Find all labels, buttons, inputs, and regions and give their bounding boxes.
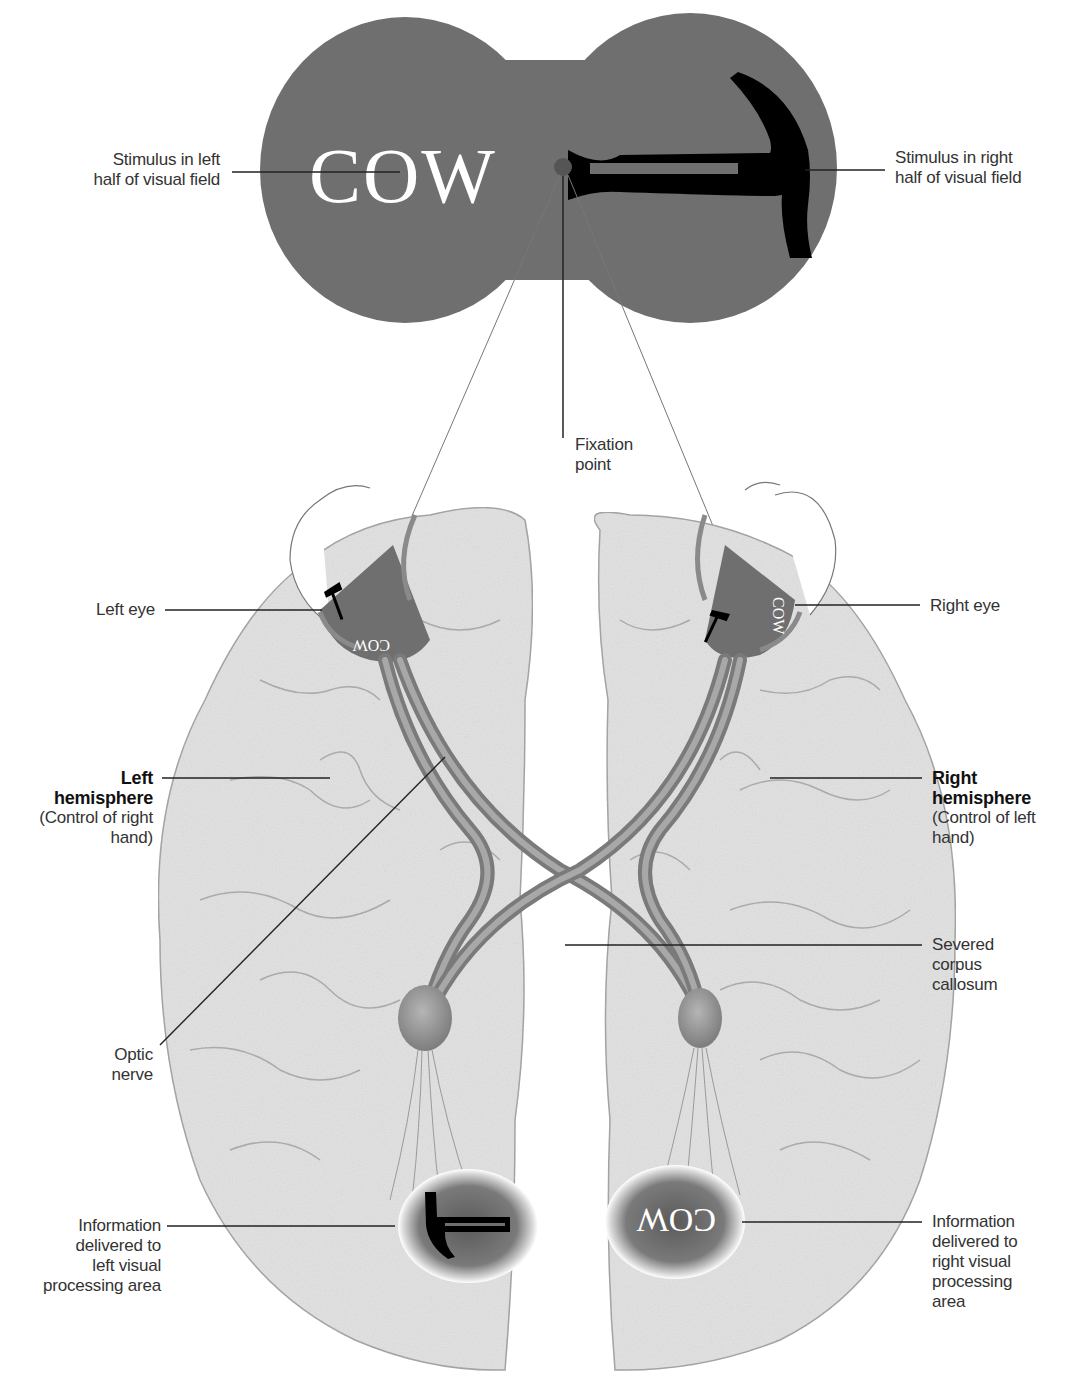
right-processing-area: COW [605,1165,745,1279]
label-line: Information [932,1212,1065,1232]
label-title: hemisphere [0,788,153,808]
label-line: (Control of left [932,808,1065,828]
label-line: delivered to [932,1232,1065,1252]
label-line: delivered to [0,1236,161,1256]
label-info-left: Information delivered to left visual pro… [0,1216,161,1296]
label-line: left visual [0,1256,161,1276]
left-eye-cow-word: COW [352,637,390,654]
label-line: Information [0,1216,161,1236]
label-line: half of visual field [40,170,220,190]
left-processing-area [398,1169,538,1283]
label-line: processing area [0,1276,161,1296]
label-title: hemisphere [932,788,1065,808]
label-line: nerve [50,1065,153,1085]
diagram-canvas: COW [0,0,1065,1379]
visual-field: COW [260,13,837,323]
right-eye-cow-word: COW [770,597,787,635]
label-line: (Control of right [0,808,153,828]
label-fixation-point: Fixation point [575,435,633,475]
label-line: Optic [50,1045,153,1065]
label-optic-nerve: Optic nerve [50,1045,153,1085]
label-right-eye: Right eye [930,596,1000,616]
label-left-eye: Left eye [40,600,155,620]
label-left-hemisphere: Left hemisphere (Control of right hand) [0,768,153,848]
label-line: half of visual field [895,168,1065,188]
label-line: Stimulus in right [895,148,1065,168]
fixation-point-dot [554,158,572,176]
label-line: hand) [0,828,153,848]
label-info-right: Information delivered to right visual pr… [932,1212,1065,1312]
stimulus-cow-word: COW [309,132,497,219]
label-corpus-callosum: Severed corpus callosum [932,935,997,995]
label-line: point [575,455,633,475]
label-line: callosum [932,975,997,995]
label-stimulus-right: Stimulus in right half of visual field [895,148,1065,188]
label-line: processing [932,1272,1065,1292]
processing-cow-word: COW [636,1202,716,1239]
label-line: Stimulus in left [40,150,220,170]
label-stimulus-left: Stimulus in left half of visual field [40,150,220,190]
label-line: right visual [932,1252,1065,1272]
label-line: Severed [932,935,997,955]
split-brain-diagram: COW [0,0,1065,1379]
label-line: hand) [932,828,1065,848]
label-right-hemisphere: Right hemisphere (Control of left hand) [932,768,1065,848]
label-line: Right eye [930,596,1000,616]
label-title: Right [932,768,1065,788]
label-line: area [932,1292,1065,1312]
label-line: corpus [932,955,997,975]
label-line: Left eye [40,600,155,620]
label-line: Fixation [575,435,633,455]
label-title: Left [0,768,153,788]
